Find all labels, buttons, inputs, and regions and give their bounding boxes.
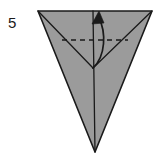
origami-diagram: 5 xyxy=(0,0,160,158)
origami-figure-svg xyxy=(0,0,160,158)
step-number-label: 5 xyxy=(8,14,16,31)
